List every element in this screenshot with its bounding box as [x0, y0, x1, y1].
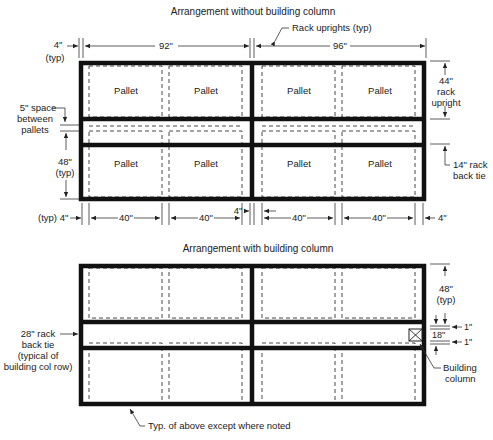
bottom-dim-pallet-1: 40"	[119, 212, 133, 223]
rack-layout-diagram: Arrangement without building column Pall…	[0, 0, 493, 440]
pallet-label: Pallet	[368, 85, 392, 96]
top-dimensions	[67, 28, 426, 58]
depth-dimension: 48"	[58, 156, 72, 167]
column-size: 18"	[432, 330, 445, 340]
clearance-top: 1"	[464, 322, 472, 332]
bottom-dim-pallet-4: 40"	[372, 212, 386, 223]
bay-width-left: 92"	[159, 40, 173, 51]
back-tie-28-label-4: building col row)	[4, 361, 73, 372]
pallet-label: Pallet	[368, 158, 392, 169]
pallet-label: Pallet	[194, 158, 218, 169]
pallet-space-callout-3: pallets	[21, 124, 49, 135]
rack-uprights-callout: Rack uprights (typ)	[292, 22, 372, 33]
rack-upright-label-2: upright	[431, 97, 460, 108]
column-depth-typ: (typ)	[437, 294, 456, 305]
back-tie-callout-1: 14" rack	[453, 159, 488, 170]
pallet-label: Pallet	[287, 158, 311, 169]
note-leader	[130, 409, 145, 426]
rack-upright-dimension: 44"	[439, 75, 453, 86]
bottom-dim-pallet-3: 40"	[292, 212, 306, 223]
top-rack-assembly	[81, 63, 424, 199]
back-tie-callout-2: back tie	[453, 170, 486, 181]
top-diagram-title: Arrangement without building column	[171, 6, 336, 17]
bottom-diagram-title: Arrangement with building column	[183, 243, 334, 254]
rack-upright-label-1: rack	[437, 86, 455, 97]
pallet-label: Pallet	[114, 158, 138, 169]
pallet-label: Pallet	[194, 85, 218, 96]
bottom-dim-pallet-2: 40"	[199, 212, 213, 223]
bottom-rack-assembly	[81, 266, 424, 404]
back-tie-28-label-2: back tie	[22, 339, 55, 350]
bottom-dim-right: 4"	[438, 212, 447, 223]
back-tie-28-label-3: (typical of	[18, 350, 59, 361]
bottom-dim-center-gap: 4"	[234, 205, 243, 216]
column-dimensions	[420, 264, 462, 368]
building-column-icon	[409, 329, 422, 341]
clearance-bottom: 1"	[464, 337, 472, 347]
bottom-dim-left-typ: (typ) 4"	[38, 212, 68, 223]
pallet-space-callout-1: 5" space	[20, 102, 57, 113]
back-tie-28-label-1: 28" rack	[21, 328, 56, 339]
bay-width-right: 96"	[333, 40, 347, 51]
building-column-label-1: Building	[443, 362, 477, 373]
typical-note: Typ. of above except where noted	[148, 420, 291, 431]
pallet-space-callout-2: between	[17, 113, 53, 124]
column-depth-dimension: 48"	[439, 283, 453, 294]
building-column-label-2: column	[445, 373, 476, 384]
depth-typ: (typ)	[56, 167, 75, 178]
upright-gap-typ: (typ)	[46, 52, 65, 63]
pallet-label: Pallet	[114, 85, 138, 96]
pallet-label: Pallet	[287, 85, 311, 96]
left-dimensions	[52, 108, 79, 199]
upright-gap-dimension: 4"	[54, 39, 63, 50]
